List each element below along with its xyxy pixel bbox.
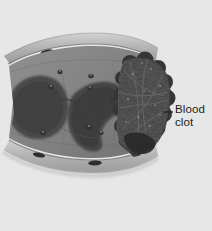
annotation-label-line-2: clot	[175, 116, 212, 129]
figure-container: Blood clot	[0, 0, 212, 231]
annotation-label-line-1: Blood	[175, 103, 212, 116]
annotation-label-blood-clot: Blood clot	[175, 103, 212, 129]
dark-tissue-mass-left	[8, 76, 68, 140]
